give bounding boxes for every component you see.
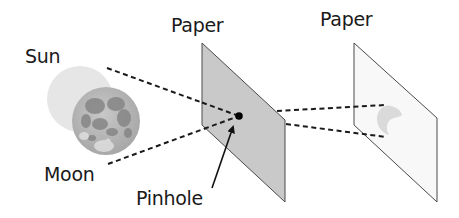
paper-right-label: Paper [320,10,372,29]
paper-middle-label: Paper [171,16,223,35]
sun-label: Sun [25,47,60,66]
moon [72,87,140,155]
pinhole [235,112,243,120]
pinhole-diagram: Sun Moon Paper Paper Pinhole [0,0,459,218]
paper-with-pinhole [202,43,285,202]
projection-paper [354,43,437,202]
moon-label: Moon [44,165,94,184]
pinhole-label: Pinhole [136,189,203,208]
